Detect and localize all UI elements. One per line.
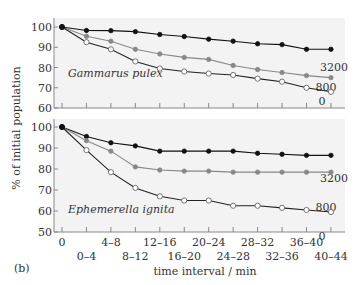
data-point [231, 63, 235, 67]
data-point [109, 28, 113, 32]
data-point [329, 75, 333, 79]
x-tick-label: 20–24 [192, 236, 226, 249]
data-point [182, 55, 186, 59]
data-point [84, 148, 89, 153]
data-point [133, 29, 137, 33]
data-point [206, 198, 211, 203]
y-tick-label: 70 [38, 82, 52, 95]
y-tick-label: 80 [38, 163, 52, 176]
data-point [84, 34, 88, 38]
data-point [108, 170, 113, 175]
data-point [304, 207, 309, 212]
data-point [280, 70, 284, 74]
data-point [182, 198, 187, 203]
data-point [182, 34, 186, 38]
data-point [207, 149, 211, 153]
data-point [304, 47, 308, 51]
data-point [255, 203, 260, 208]
data-point [231, 39, 235, 43]
data-point [280, 152, 284, 156]
species-label: Gammarus pulex [68, 67, 163, 80]
y-tick-label: 90 [38, 142, 52, 155]
data-point [329, 153, 333, 157]
species-label: Ephemerella ignita [67, 203, 175, 216]
x-tick-label: 40–44 [314, 250, 348, 263]
data-point [304, 153, 308, 157]
y-tick-label: 100 [31, 121, 52, 134]
data-point [157, 66, 162, 71]
x-tick-label: 0 [59, 236, 66, 249]
data-point [109, 149, 113, 153]
y-tick-label: 50 [38, 226, 52, 239]
y-axis-title: % of initial population [10, 66, 23, 189]
x-tick-label: 36–40 [290, 236, 324, 249]
x-tick-label: 4–8 [101, 236, 121, 249]
data-point [108, 47, 113, 52]
data-point [231, 170, 235, 174]
data-point [280, 42, 284, 46]
data-point [255, 76, 260, 81]
data-point [207, 169, 211, 173]
data-point [182, 169, 186, 173]
x-axis-title: time interval / min [153, 265, 256, 278]
data-point [328, 209, 333, 214]
data-point [133, 59, 138, 64]
data-point [182, 69, 187, 74]
data-point [231, 149, 235, 153]
x-tick-label: 8–12 [122, 250, 149, 263]
data-point [84, 134, 88, 138]
data-point [207, 37, 211, 41]
data-point [158, 52, 162, 56]
y-tick-label: 70 [38, 184, 52, 197]
data-point [133, 185, 138, 190]
x-tick-label: 28–32 [241, 236, 275, 249]
data-point [182, 149, 186, 153]
data-point [133, 47, 137, 51]
x-tick-label: 32–36 [265, 250, 299, 263]
x-tick-label: 0–4 [77, 250, 97, 263]
x-tick-label: 12–16 [143, 236, 177, 249]
data-point [231, 203, 236, 208]
data-point [59, 24, 64, 29]
data-point [329, 47, 333, 51]
data-point [206, 71, 211, 76]
x-tick-label: 16–20 [168, 250, 202, 263]
data-point [59, 124, 64, 129]
figure-label: (b) [14, 262, 30, 275]
y-tick-label: 90 [38, 41, 52, 54]
y-tick-label: 60 [38, 102, 52, 115]
data-point [84, 40, 89, 45]
series-label-3200: 3200 [320, 172, 348, 185]
plot-background [54, 18, 345, 108]
data-point [304, 73, 308, 77]
data-point [255, 42, 259, 46]
data-point [157, 194, 162, 199]
data-point [279, 79, 284, 84]
data-point [255, 151, 259, 155]
data-point [329, 170, 333, 174]
panel-ephemerella: 5060708090100Ephemerella ignita32008000 [31, 119, 348, 243]
y-tick-label: 80 [38, 62, 52, 75]
data-point [133, 144, 137, 148]
data-point [255, 67, 259, 71]
panel-gammarus: 60708090100Gammarus pulex32008000 [31, 18, 348, 115]
data-point [231, 72, 236, 77]
data-point [158, 32, 162, 36]
data-point [109, 39, 113, 43]
data-point [133, 165, 137, 169]
data-point [255, 170, 259, 174]
data-point [84, 138, 88, 142]
data-point [304, 85, 309, 90]
chart-figure: 60708090100Gammarus pulex320080005060708… [0, 0, 361, 285]
data-point [109, 141, 113, 145]
series-label-3200: 3200 [320, 61, 348, 74]
data-point [207, 57, 211, 61]
data-point [84, 28, 88, 32]
y-tick-label: 60 [38, 205, 52, 218]
data-point [304, 170, 308, 174]
data-point [328, 89, 333, 94]
data-point [280, 170, 284, 174]
data-point [158, 168, 162, 172]
y-tick-label: 100 [31, 21, 52, 34]
data-point [158, 149, 162, 153]
